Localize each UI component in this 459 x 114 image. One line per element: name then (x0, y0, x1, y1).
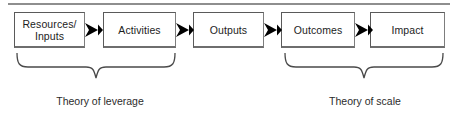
brace-theory-of-leverage (14, 53, 178, 89)
stage-label-resources-inputs: Resources/ Inputs (22, 18, 76, 42)
stage-label-outputs: Outputs (210, 24, 247, 36)
arrow-right-icon (176, 22, 194, 38)
brace-theory-of-scale (282, 53, 446, 89)
top-divider-rule (8, 3, 450, 5)
arrow-right-icon (264, 22, 282, 38)
group-caption-theory-of-leverage: Theory of leverage (20, 95, 180, 107)
stage-label-impact: Impact (391, 24, 423, 36)
group-caption-theory-of-scale: Theory of scale (285, 95, 445, 107)
stage-box-impact: Impact (370, 12, 445, 48)
stage-box-outputs: Outputs (193, 12, 264, 48)
logic-model-diagram: Resources/ Inputs Activities Outputs Out… (0, 0, 459, 114)
stage-label-outcomes: Outcomes (294, 24, 343, 36)
stage-box-outcomes: Outcomes (281, 12, 355, 48)
stage-label-activities: Activities (118, 24, 160, 36)
stage-box-resources-inputs: Resources/ Inputs (14, 12, 85, 48)
arrow-right-icon (85, 22, 103, 38)
arrow-right-icon (355, 22, 373, 38)
stage-box-activities: Activities (103, 12, 176, 48)
